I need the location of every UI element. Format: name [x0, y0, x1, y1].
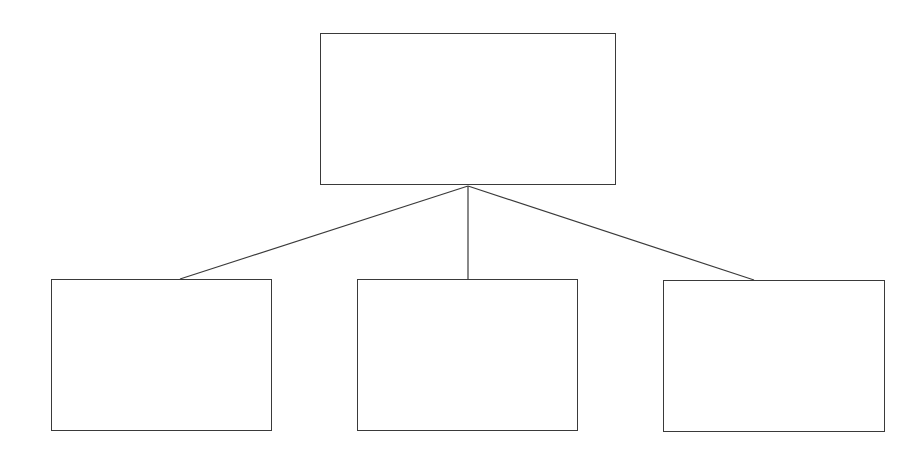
connector-root-to-left — [180, 186, 468, 279]
child-node-middle-box — [357, 279, 578, 431]
child-node-left-box — [51, 279, 272, 431]
org-chart-diagram — [0, 0, 921, 454]
connector-root-to-right — [468, 186, 754, 280]
child-node-right-box — [663, 280, 885, 432]
root-node-box — [320, 33, 616, 185]
